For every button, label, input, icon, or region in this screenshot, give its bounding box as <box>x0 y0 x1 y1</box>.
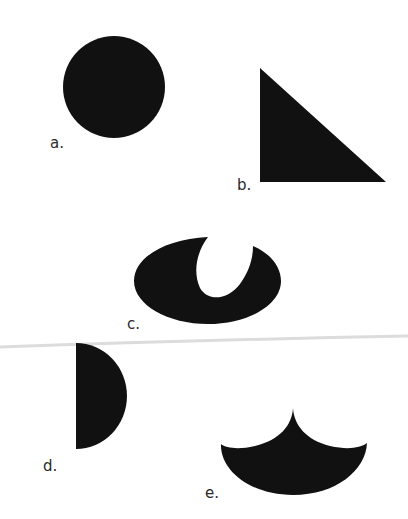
label-e: e. <box>205 484 219 502</box>
label-d: d. <box>43 457 57 475</box>
shapes-figure: a. b. c. d. e. <box>0 0 408 519</box>
shape-d: d. <box>43 343 127 475</box>
ellipse-notch-shape <box>134 237 281 324</box>
shape-e: e. <box>205 408 367 502</box>
triangle-shape <box>260 68 386 182</box>
label-c: c. <box>127 315 140 333</box>
shape-a: a. <box>50 36 165 152</box>
fold-line <box>0 336 408 347</box>
semicircle-shape <box>76 343 127 449</box>
cusp-shape <box>221 408 367 495</box>
label-a: a. <box>50 134 64 152</box>
label-b: b. <box>237 176 251 194</box>
shape-b: b. <box>237 68 386 194</box>
shape-c: c. <box>127 237 281 333</box>
circle-shape <box>63 36 165 138</box>
